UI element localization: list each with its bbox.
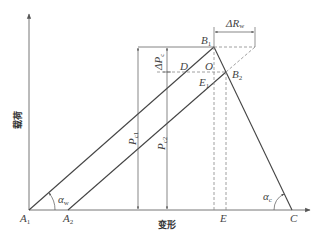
label-alpha-c: αc — [263, 190, 272, 204]
label-o: O — [205, 60, 213, 72]
label-alpha-w: αw — [58, 193, 70, 207]
label-a2: A2 — [62, 212, 74, 226]
label-a1: A1 — [19, 212, 31, 226]
y-axis-title: 载荷 — [12, 111, 23, 129]
line-a2-b2 — [68, 72, 226, 210]
a2-b2-extension-dashed — [226, 47, 255, 72]
label-b2: B2 — [232, 68, 243, 82]
label-e: E — [219, 212, 227, 224]
label-b1: B1 — [201, 34, 212, 48]
label-delta-rw: ΔRw — [225, 17, 245, 30]
label-d: D — [179, 60, 188, 72]
load-deformation-diagram: A1 A2 B1 B2 C E E1 D O ΔRw ΔPc Pc1 Pc2 α… — [0, 0, 323, 241]
label-delta-pc: ΔPc — [152, 54, 166, 71]
alpha-c-arc — [274, 194, 284, 210]
alpha-w-arc — [49, 193, 55, 210]
diagram-svg: A1 A2 B1 B2 C E E1 D O ΔRw ΔPc Pc1 Pc2 α… — [0, 0, 323, 241]
label-pc1: Pc1 — [126, 131, 140, 146]
label-pc2: Pc2 — [155, 136, 169, 151]
label-e1: E1 — [198, 76, 210, 90]
x-axis-title: 变形 — [158, 219, 176, 230]
label-c: C — [290, 212, 298, 224]
